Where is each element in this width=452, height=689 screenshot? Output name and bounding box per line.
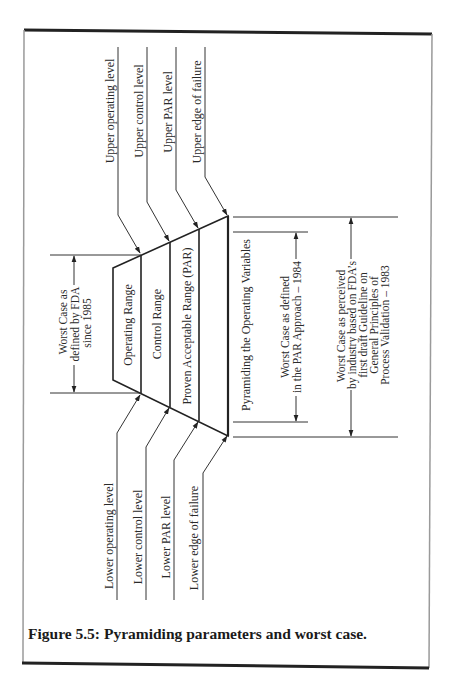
- fda-label-line-3: since 1985: [81, 298, 93, 348]
- figure-caption: Figure 5.5: Pyramiding parameters and wo…: [28, 625, 367, 642]
- frame-bottom-rule: [22, 663, 429, 668]
- lower-operating-level-label: Lower operating level: [102, 482, 116, 589]
- upper-operating-level-label: Upper operating level: [103, 58, 117, 163]
- par-approach-label-line-2: in the PAR Approach – 1984: [291, 261, 304, 393]
- figure-canvas: Upper operating level Upper control leve…: [0, 0, 452, 689]
- operating-range-label: Operating Range: [121, 284, 135, 366]
- frame-top-rule: [24, 30, 432, 34]
- upper-control-level-label: Upper control level: [132, 64, 146, 158]
- upper-failure-edge-label: Upper edge of failure: [190, 61, 204, 164]
- lower-par-level-label: Lower PAR level: [159, 495, 173, 579]
- control-range-label: Control Range: [150, 289, 164, 359]
- worst-case-industry-dimension: Worst Case as perceived by industry base…: [335, 218, 391, 436]
- industry-label-line-5: Process Validation – 1983: [379, 265, 391, 385]
- worst-case-par-dimension: Worst Case as defined in the PAR Approac…: [279, 233, 304, 421]
- frame-right-border: [429, 34, 432, 668]
- pyramid-trapezoid: Operating Range Control Range Proven Acc…: [113, 216, 228, 436]
- par-approach-label-line-1: Worst Case as defined: [279, 276, 291, 378]
- pyramiding-label: Pyramiding the Operating Variables: [239, 239, 253, 411]
- lower-failure-edge-label: Lower edge of failure: [187, 486, 201, 590]
- upper-failure-leader-arrow-icon: [205, 47, 227, 215]
- fda-label-line-1: Worst Case as: [57, 289, 69, 354]
- lower-control-level-label: Lower control level: [131, 489, 145, 584]
- upper-par-level-label: Upper PAR level: [161, 71, 175, 153]
- lower-failure-leader-arrow-icon: [203, 436, 227, 600]
- par-range-label: Proven Acceptable Range (PAR): [180, 247, 194, 404]
- frame-left-border: [23, 30, 24, 664]
